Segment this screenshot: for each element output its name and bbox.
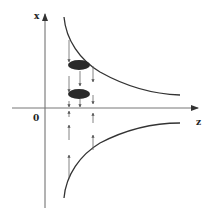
hyperbolic-flow-diagram: x z 0 <box>0 0 214 212</box>
particle-ellipse-1 <box>68 60 90 70</box>
upper-curve <box>64 17 180 95</box>
particle-ellipse-2 <box>68 89 90 99</box>
upward-arrows <box>69 111 93 178</box>
origin-label: 0 <box>33 114 39 123</box>
x-axis-label: x <box>34 12 39 21</box>
diagram-canvas <box>0 0 214 212</box>
lower-curve <box>64 123 180 198</box>
z-axis-label: z <box>196 118 201 127</box>
